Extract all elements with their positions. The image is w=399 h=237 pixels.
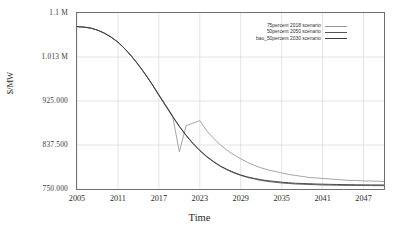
y-axis-tick-label: 1.013 M <box>0 52 68 61</box>
y-axis-tick-label: 837.500 <box>0 140 68 149</box>
x-axis-tick-label: 2023 <box>177 194 223 203</box>
legend-color-swatch <box>325 26 347 27</box>
series-line-2 <box>77 27 384 185</box>
y-axis-tick-label: 925.000 <box>0 96 68 105</box>
x-axis-tick-label: 2011 <box>95 194 141 203</box>
x-axis-tick-label: 2017 <box>136 194 182 203</box>
x-axis-tick-label: 2041 <box>300 194 346 203</box>
legend-item-label: bau_50percent 2030 scenario <box>256 36 321 42</box>
series-line-1 <box>77 27 384 186</box>
chart-container: $/MW 750.000837.500925.0001.013 M1.1 M 2… <box>0 0 399 237</box>
chart-legend: 75percent 2018 scenario50percent 2050 sc… <box>256 23 347 42</box>
series-line-0 <box>77 27 384 182</box>
x-axis-tick-label: 2035 <box>259 194 305 203</box>
x-axis-tick-label: 2047 <box>341 194 387 203</box>
legend-color-swatch <box>325 38 347 39</box>
x-axis-tick-label: 2029 <box>218 194 264 203</box>
legend-color-swatch <box>325 32 347 33</box>
legend-item-2[interactable]: bau_50percent 2030 scenario <box>256 36 347 42</box>
x-axis-title: Time <box>0 212 399 223</box>
y-axis-tick-label: 750.000 <box>0 184 68 193</box>
y-axis-tick-label: 1.1 M <box>0 8 68 17</box>
x-axis-tick-label: 2005 <box>54 194 100 203</box>
